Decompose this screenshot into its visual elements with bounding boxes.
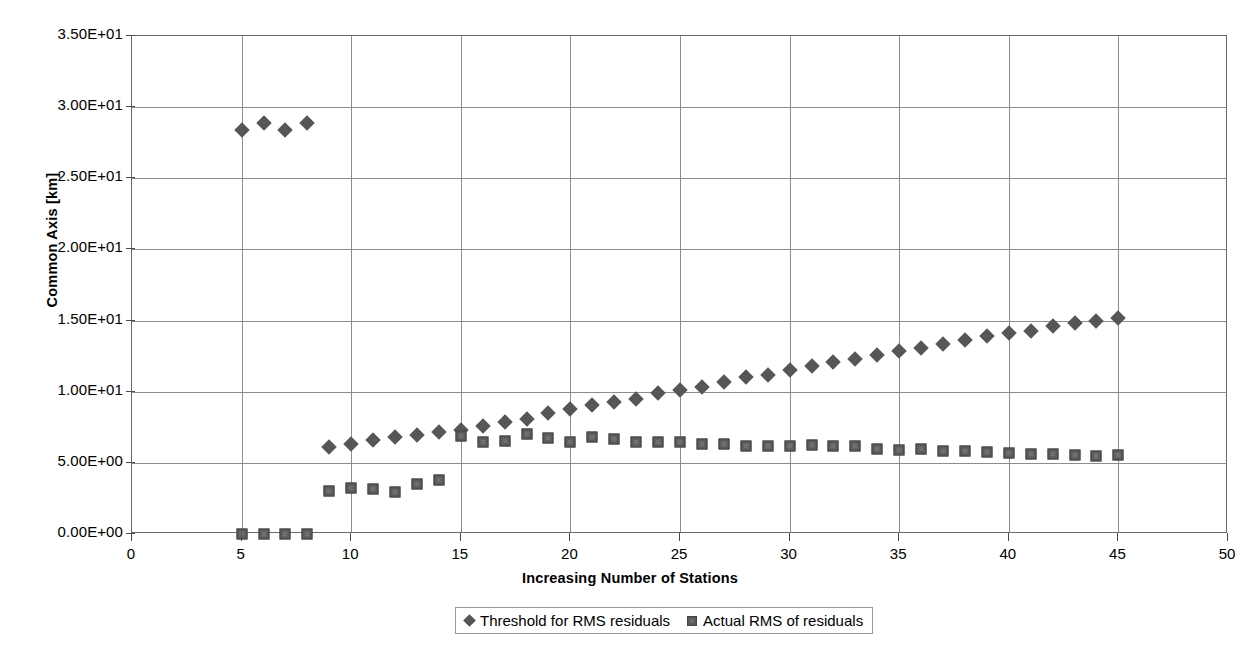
y-axis-tick-label: 5.00E+00 (18, 452, 123, 469)
data-point-diamond (278, 122, 294, 138)
x-axis-tick-mark (131, 533, 132, 541)
data-point-square (1003, 447, 1014, 458)
data-point-square (653, 437, 664, 448)
data-point-diamond (935, 336, 951, 352)
data-point-square (916, 444, 927, 455)
y-axis-tick-mark (126, 462, 135, 463)
data-point-diamond (913, 340, 929, 356)
data-point-square (762, 441, 773, 452)
x-axis-tick-mark (679, 533, 680, 541)
data-point-diamond (738, 370, 754, 386)
gridline-vertical (242, 36, 243, 532)
gridline-horizontal (132, 178, 1226, 179)
data-point-diamond (300, 115, 316, 131)
plot-area (131, 35, 1227, 533)
data-point-square (302, 529, 313, 540)
y-axis-tick-label: 2.50E+01 (18, 167, 123, 184)
data-point-square (324, 485, 335, 496)
data-point-diamond (541, 405, 557, 421)
data-point-square (1113, 450, 1124, 461)
x-axis-title: Increasing Number of Stations (0, 570, 1260, 586)
data-point-diamond (409, 427, 425, 443)
gridline-vertical (351, 36, 352, 532)
data-point-diamond (760, 367, 776, 383)
x-axis-tick-label: 15 (440, 545, 480, 562)
data-point-square (236, 529, 247, 540)
data-point-square (411, 479, 422, 490)
x-axis-tick-label: 0 (111, 545, 151, 562)
data-point-diamond (826, 354, 842, 370)
x-axis-tick-label: 5 (221, 545, 261, 562)
data-point-square (455, 430, 466, 441)
gridline-vertical (899, 36, 900, 532)
gridline-vertical (461, 36, 462, 532)
data-point-square (784, 440, 795, 451)
y-axis-tick-mark (126, 391, 135, 392)
data-point-diamond (256, 115, 272, 131)
x-axis-tick-mark (1227, 533, 1228, 541)
data-point-square (938, 445, 949, 456)
chart-figure: Common Axis [km] 0.00E+005.00E+001.00E+0… (0, 0, 1260, 649)
data-point-diamond (563, 401, 579, 417)
data-point-square (565, 437, 576, 448)
gridline-vertical (570, 36, 571, 532)
data-point-diamond (869, 347, 885, 363)
data-point-diamond (1023, 323, 1039, 339)
x-axis-tick-label: 30 (769, 545, 809, 562)
data-point-square (872, 443, 883, 454)
data-point-diamond (957, 333, 973, 349)
y-axis-tick-label: 3.50E+01 (18, 25, 123, 42)
data-point-diamond (497, 415, 513, 431)
data-point-square (850, 441, 861, 452)
legend-diamond-icon (463, 614, 476, 627)
x-axis-tick-label: 50 (1207, 545, 1247, 562)
y-axis-tick-mark (126, 248, 135, 249)
data-point-square (587, 432, 598, 443)
data-point-square (368, 484, 379, 495)
y-axis-tick-label: 1.50E+01 (18, 310, 123, 327)
y-axis-tick-mark (126, 35, 135, 36)
data-point-diamond (848, 351, 864, 367)
data-point-square (280, 529, 291, 540)
legend-entry: Actual RMS of residuals (687, 612, 863, 629)
y-axis-tick-label: 2.00E+01 (18, 238, 123, 255)
data-point-diamond (979, 328, 995, 344)
data-point-diamond (606, 394, 622, 410)
x-axis-tick-mark (241, 533, 242, 541)
data-point-square (609, 433, 620, 444)
data-point-square (1069, 450, 1080, 461)
data-point-diamond (782, 363, 798, 379)
x-axis-tick-mark (898, 533, 899, 541)
data-point-square (477, 436, 488, 447)
data-point-square (981, 447, 992, 458)
x-axis-tick-label: 40 (988, 545, 1028, 562)
y-axis-tick-mark (126, 106, 135, 107)
legend-entry: Threshold for RMS residuals (465, 612, 670, 629)
data-point-square (390, 487, 401, 498)
gridline-vertical (680, 36, 681, 532)
data-point-diamond (431, 424, 447, 440)
data-point-square (675, 437, 686, 448)
x-axis-tick-label: 25 (659, 545, 699, 562)
data-point-square (1091, 450, 1102, 461)
data-point-square (828, 440, 839, 451)
data-point-square (258, 529, 269, 540)
data-point-square (740, 440, 751, 451)
data-point-square (696, 438, 707, 449)
data-point-diamond (475, 418, 491, 434)
data-point-square (894, 445, 905, 456)
data-point-diamond (234, 122, 250, 138)
data-point-diamond (891, 343, 907, 359)
data-point-square (1047, 449, 1058, 460)
data-point-square (1025, 448, 1036, 459)
data-point-square (806, 440, 817, 451)
data-point-diamond (650, 385, 666, 401)
x-axis-tick-mark (789, 533, 790, 541)
data-point-diamond (343, 436, 359, 452)
data-point-square (543, 432, 554, 443)
data-point-diamond (321, 439, 337, 455)
data-point-square (499, 435, 510, 446)
x-axis-tick-label: 10 (330, 545, 370, 562)
x-axis-tick-mark (1008, 533, 1009, 541)
legend-label: Actual RMS of residuals (703, 612, 863, 629)
